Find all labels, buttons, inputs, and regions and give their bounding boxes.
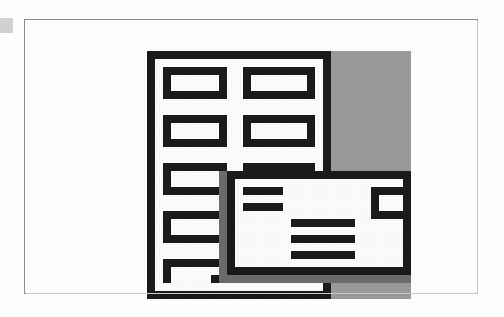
mosaic-cell (259, 75, 267, 83)
mosaic-cell (307, 275, 315, 283)
mosaic-cell (211, 155, 219, 163)
mosaic-cell (307, 171, 315, 179)
mosaic-cell (331, 147, 339, 155)
mosaic-cell (251, 147, 259, 155)
mosaic-cell (155, 75, 163, 83)
mosaic-cell (379, 147, 387, 155)
mosaic-cell (147, 123, 155, 131)
mosaic-cell (211, 187, 219, 195)
mosaic-cell (235, 203, 243, 211)
mosaic-cell (235, 75, 243, 83)
mosaic-cell (203, 147, 211, 155)
mosaic-cell (307, 211, 315, 219)
mosaic-cell (171, 123, 179, 131)
mosaic-cell (187, 155, 195, 163)
mosaic-cell (251, 179, 259, 187)
mosaic-cell (243, 91, 251, 99)
mosaic-cell (203, 243, 211, 251)
mosaic-cell (307, 179, 315, 187)
mosaic-cell (371, 203, 379, 211)
mosaic-cell (211, 235, 219, 243)
mosaic-cell (267, 219, 275, 227)
mosaic-cell (163, 267, 171, 275)
mosaic-cell (395, 283, 403, 291)
mosaic-cell (179, 283, 187, 291)
mosaic-cell (283, 75, 291, 83)
mosaic-cell (163, 203, 171, 211)
mosaic-cell (275, 259, 283, 267)
mosaic-cell (299, 115, 307, 123)
mosaic-cell (267, 75, 275, 83)
mosaic-cell (147, 187, 155, 195)
mosaic-cell (379, 267, 387, 275)
mosaic-cell (299, 91, 307, 99)
mosaic-cell (219, 211, 227, 219)
mosaic-cell (163, 243, 171, 251)
mosaic-cell (259, 115, 267, 123)
mosaic-cell (243, 259, 251, 267)
mosaic-cell (179, 179, 187, 187)
mosaic-cell (395, 107, 403, 115)
mosaic-cell (219, 163, 227, 171)
mosaic-cell (179, 291, 187, 299)
mosaic-cell (235, 147, 243, 155)
mosaic-cell (371, 291, 379, 299)
mosaic-cell (235, 107, 243, 115)
mosaic-cell (355, 147, 363, 155)
mosaic-cell (387, 291, 395, 299)
mosaic-cell (323, 83, 331, 91)
mosaic-cell (243, 123, 251, 131)
mosaic-cell (291, 131, 299, 139)
mosaic-cell (355, 211, 363, 219)
mosaic-cell (155, 147, 163, 155)
mosaic-cell (355, 83, 363, 91)
mosaic-cell (251, 131, 259, 139)
mosaic-cell (203, 83, 211, 91)
mosaic-cell (355, 75, 363, 83)
mosaic-cell (235, 51, 243, 59)
mosaic-cell (323, 203, 331, 211)
mosaic-cell (147, 75, 155, 83)
mosaic-cell (163, 283, 171, 291)
mosaic-cell (179, 259, 187, 267)
mosaic-cell (403, 211, 411, 219)
mosaic-cell (339, 235, 347, 243)
mosaic-cell (283, 139, 291, 147)
mosaic-cell (291, 51, 299, 59)
mosaic-cell (235, 219, 243, 227)
mosaic-cell (219, 75, 227, 83)
mosaic-cell (371, 147, 379, 155)
mosaic-cell (203, 227, 211, 235)
mosaic-cell (195, 91, 203, 99)
mosaic-cell (283, 235, 291, 243)
mosaic-cell (235, 131, 243, 139)
mosaic-cell (403, 171, 411, 179)
mosaic-cell (195, 219, 203, 227)
mosaic-cell (339, 123, 347, 131)
mosaic-cell (155, 163, 163, 171)
mosaic-cell (291, 259, 299, 267)
mosaic-cell (155, 243, 163, 251)
mosaic-cell (219, 131, 227, 139)
mosaic-cell (291, 195, 299, 203)
mosaic-cell (171, 195, 179, 203)
mosaic-cell (363, 235, 371, 243)
mosaic-cell (251, 107, 259, 115)
mosaic-cell (211, 179, 219, 187)
mosaic-cell (379, 219, 387, 227)
mosaic-cell (219, 259, 227, 267)
mosaic-cell (147, 99, 155, 107)
mosaic-cell (267, 211, 275, 219)
mosaic-cell (339, 283, 347, 291)
mosaic-cell (355, 203, 363, 211)
mosaic-cell (235, 227, 243, 235)
mosaic-cell (235, 235, 243, 243)
mosaic-cell (275, 251, 283, 259)
mosaic-cell (219, 235, 227, 243)
mosaic-cell (363, 243, 371, 251)
mosaic-cell (179, 67, 187, 75)
mosaic-cell (267, 147, 275, 155)
mosaic-cell (179, 123, 187, 131)
mosaic-cell (403, 267, 411, 275)
mosaic-cell (283, 179, 291, 187)
